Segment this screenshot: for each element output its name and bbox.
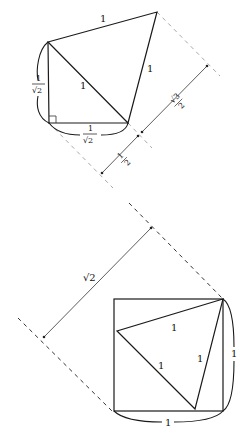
svg-text:1: 1: [36, 74, 41, 83]
label-left-leg-fraction: 1 √2: [32, 74, 45, 95]
dimension-line-sqrt2: [44, 228, 151, 337]
dimension-endpoint-top: [206, 65, 209, 68]
label-bottom-leg-fraction: 1 √2: [83, 124, 97, 145]
label-dim-upper-fraction: √3 2: [167, 92, 188, 113]
label-square-right: 1: [231, 348, 237, 359]
svg-text:√2: √2: [83, 136, 93, 145]
top-figure: 1 1 1 1 √2 1 √2 √3 2 1 2: [32, 12, 220, 188]
dimension-endpoint-lower: [43, 336, 46, 339]
dimension-endpoint-upper: [150, 227, 153, 230]
label-triangle-top: 1: [171, 322, 177, 333]
label-triangle-right: 1: [197, 353, 203, 364]
right-angle-marker: [49, 116, 56, 123]
svg-text:2: 2: [177, 101, 187, 111]
svg-text:√2: √2: [32, 86, 42, 95]
label-top-edge: 1: [100, 13, 106, 24]
label-square-bottom: 1: [165, 417, 171, 428]
svg-text:2: 2: [123, 158, 133, 168]
label-diagonal: √2: [83, 272, 96, 283]
dimension-marker-a: [141, 131, 144, 134]
label-right-edge: 1: [147, 63, 153, 74]
dashed-diagonal-bottom: [18, 318, 112, 411]
label-hypotenuse: 1: [80, 80, 86, 91]
svg-text:1: 1: [88, 124, 93, 133]
bottom-figure: √2 1 1 1 1 1: [18, 203, 237, 428]
dashed-projection-bottom: [49, 123, 113, 188]
label-triangle-left: 1: [158, 360, 164, 371]
dashed-diagonal-top: [129, 203, 223, 299]
geometry-diagram: 1 1 1 1 √2 1 √2 √3 2 1 2: [0, 0, 248, 435]
inscribed-equilateral-triangle: [117, 299, 223, 409]
dimension-endpoint-bottom: [101, 172, 104, 175]
dashed-projection-top: [157, 12, 220, 76]
dashed-projection-middle: [128, 123, 152, 148]
label-dim-lower-fraction: 1 2: [114, 150, 133, 169]
dimension-marker-b: [137, 135, 140, 138]
left-leg: [48, 42, 49, 123]
equilateral-triangle: [48, 12, 157, 123]
